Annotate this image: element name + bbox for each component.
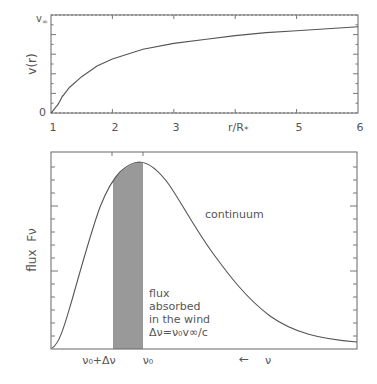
x-axis-nu-label: ν	[265, 354, 271, 367]
x-tick-3: 3	[173, 121, 180, 134]
flux-plot: flux Fν continuum flux absorbed in the w…	[25, 152, 357, 367]
annotation-flux: flux	[149, 287, 170, 300]
velocity-curve	[51, 27, 358, 113]
y-tick-vinf: v∞	[36, 13, 48, 26]
x-axis-label: r/R*	[228, 121, 249, 135]
y-tick-zero: 0	[39, 106, 46, 119]
x-tick-2: 2	[112, 121, 119, 134]
x-tick-5: 5	[296, 121, 303, 134]
continuum-label: continuum	[205, 208, 264, 221]
annotation-delta-nu: Δν=ν₀v∞/c	[149, 326, 208, 339]
absorbed-band	[113, 162, 143, 349]
annotation-in-the-wind: in the wind	[149, 313, 210, 326]
annotation-absorbed: absorbed	[149, 300, 200, 313]
x-tick-1: 1	[50, 121, 57, 134]
velocity-plot: v(r) v∞ 0 1 2 3 r/R* 5 6	[25, 13, 364, 135]
top-ylabel: v(r)	[25, 53, 39, 74]
bottom-plot-ticks	[51, 152, 357, 336]
bottom-ylabel: flux Fν	[25, 228, 39, 272]
figure: v(r) v∞ 0 1 2 3 r/R* 5 6 flux Fν continu…	[0, 0, 377, 384]
tick-nu0-plus-dnu: ν₀+Δν	[82, 354, 115, 367]
arrow-left-icon: ←	[239, 352, 249, 366]
tick-nu0: ν₀	[143, 354, 154, 367]
x-tick-6: 6	[357, 121, 364, 134]
